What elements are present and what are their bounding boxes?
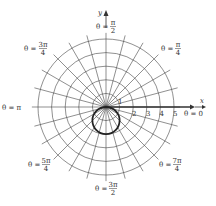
label-theta-5pi-4: θ = 5π 4 xyxy=(28,157,51,173)
svg-text:θ =: θ = xyxy=(96,23,108,31)
svg-text:3π: 3π xyxy=(38,41,47,49)
svg-text:4: 4 xyxy=(175,165,180,173)
x-axis-label: x xyxy=(200,97,204,105)
x-axis-arrowhead-icon xyxy=(202,105,206,109)
svg-text:θ =: θ = xyxy=(24,45,36,53)
svg-text:π: π xyxy=(176,41,181,49)
svg-text:2: 2 xyxy=(111,189,115,197)
y-axis-label: y xyxy=(97,9,103,17)
svg-text:θ =: θ = xyxy=(161,45,173,53)
svg-text:2: 2 xyxy=(111,27,115,35)
grid-spoke xyxy=(106,35,125,107)
grid-spoke xyxy=(87,35,106,107)
grid-spoke xyxy=(106,70,170,107)
grid-spoke xyxy=(69,107,106,171)
polar-graph: y x 1 2 3 4 5 θ = 0 θ = π θ = π 2 θ = π … xyxy=(0,0,216,206)
ring-label-1: 1 xyxy=(118,98,122,106)
grid-spoke xyxy=(106,107,125,179)
label-theta-3pi-4: θ = 3π 4 xyxy=(24,41,48,57)
grid-spoke xyxy=(106,107,178,126)
label-theta-3pi-2: θ = 3π 2 xyxy=(95,181,118,197)
ring-label-5: 5 xyxy=(173,110,177,118)
ring-label-2: 2 xyxy=(132,110,136,118)
label-theta-pi: θ = π xyxy=(2,104,22,112)
label-theta-7pi-4: θ = 7π 4 xyxy=(159,157,182,173)
label-theta-0: θ = 0 xyxy=(184,110,203,118)
ring-label-3: 3 xyxy=(146,110,150,118)
svg-text:4: 4 xyxy=(41,49,46,57)
svg-text:7π: 7π xyxy=(172,157,181,165)
label-theta-pi-4: θ = π 4 xyxy=(161,41,181,57)
grid-spoke xyxy=(42,107,106,144)
svg-text:5π: 5π xyxy=(41,157,50,165)
grid-spoke xyxy=(42,70,106,107)
svg-text:3π: 3π xyxy=(108,181,117,189)
grid-spoke xyxy=(106,43,143,107)
svg-text:4: 4 xyxy=(176,49,181,57)
ring-label-4: 4 xyxy=(160,110,165,118)
grid-spoke xyxy=(69,43,106,107)
svg-text:θ =: θ = xyxy=(28,161,40,169)
grid-spoke xyxy=(106,88,178,107)
svg-text:π: π xyxy=(111,19,116,27)
grid-spoke xyxy=(34,88,106,107)
grid-spoke xyxy=(87,107,106,179)
svg-text:θ =: θ = xyxy=(159,161,171,169)
svg-text:θ =: θ = xyxy=(95,185,107,193)
grid-spoke xyxy=(106,107,143,171)
grid-spoke xyxy=(34,107,106,126)
polar-axis-arrowhead-icon xyxy=(190,105,195,110)
y-axis-arrowhead-icon xyxy=(104,10,109,16)
svg-text:4: 4 xyxy=(44,165,49,173)
